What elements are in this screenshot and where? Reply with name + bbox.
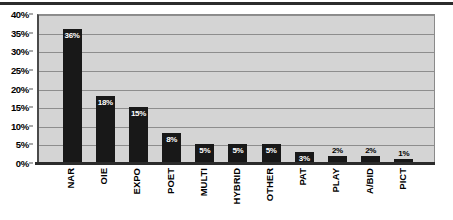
bar-value-label: 5% <box>188 146 221 155</box>
plot-area: 36%18%15%8%5%5%5%3%2%2%1% <box>37 14 435 163</box>
bar-group: 3% <box>288 15 321 163</box>
x-tick-group: OIE <box>87 166 120 220</box>
y-tick-label: 5% <box>16 139 29 150</box>
x-tick-label: NAR <box>65 168 76 189</box>
bar-value-label: 5% <box>221 146 254 155</box>
bar-group: 18% <box>89 15 122 163</box>
x-tick-group: OTHER <box>253 166 286 220</box>
bar-value-label: 1% <box>387 149 420 158</box>
y-tick-mark <box>29 14 33 15</box>
bar-value-label: 2% <box>321 146 354 155</box>
bar-value-label: 5% <box>255 146 288 155</box>
x-axis-baseline <box>35 162 435 165</box>
y-tick-mark <box>29 107 33 108</box>
x-tick-label: POET <box>164 168 175 194</box>
x-tick-group: NAR <box>54 166 87 220</box>
x-tick-label: A/BID <box>363 168 374 194</box>
y-tick-label: 10% <box>11 120 29 131</box>
x-tick-group: PICT <box>385 166 418 220</box>
x-tick-group: HYBRID <box>219 166 252 220</box>
bar-group: 8% <box>155 15 188 163</box>
x-tick-group: POET <box>153 166 186 220</box>
x-tick-label: OTHER <box>264 168 275 201</box>
x-tick-label: PAT <box>297 168 308 186</box>
bar-group: 5% <box>221 15 254 163</box>
x-tick-group: A/BID <box>352 166 385 220</box>
top-divider-rule <box>0 2 453 5</box>
y-tick-label: 0% <box>16 158 29 169</box>
x-tick-label: HYBRID <box>230 168 241 204</box>
bar-group: 5% <box>255 15 288 163</box>
bars-layer: 36%18%15%8%5%5%5%3%2%2%1% <box>39 15 434 163</box>
x-tick-label: OIE <box>98 168 109 184</box>
bar-group: 5% <box>188 15 221 163</box>
y-tick-label: 15% <box>11 102 29 113</box>
bar-value-label: 36% <box>56 31 89 40</box>
bar-value-label: 18% <box>89 98 122 107</box>
y-tick-mark <box>29 88 33 89</box>
y-tick-mark <box>29 51 33 52</box>
x-tick-label: PICT <box>396 168 407 190</box>
bar-value-label: 15% <box>122 109 155 118</box>
bar-group: 2% <box>354 15 387 163</box>
bar-group: 36% <box>56 15 89 163</box>
y-tick-mark <box>29 144 33 145</box>
y-tick-label: 20% <box>11 83 29 94</box>
x-tick-group: PAT <box>286 166 319 220</box>
x-axis: NAROIEEXPOPOETMULTIHYBRIDOTHERPATPLAYA/B… <box>37 166 435 220</box>
x-tick-group: PLAY <box>319 166 352 220</box>
y-tick-mark <box>29 163 33 164</box>
bar-group: 1% <box>387 15 420 163</box>
bar-group: 2% <box>321 15 354 163</box>
y-axis: 0%5%10%15%20%25%30%35%40% <box>0 14 33 163</box>
bar <box>63 29 82 163</box>
bar-group: 15% <box>122 15 155 163</box>
bar-chart-figure: 0%5%10%15%20%25%30%35%40% 36%18%15%8%5%5… <box>0 0 453 220</box>
y-tick-mark <box>29 125 33 126</box>
y-tick-label: 40% <box>11 9 29 20</box>
y-tick-label: 35% <box>11 27 29 38</box>
x-tick-label: EXPO <box>131 168 142 194</box>
bar-value-label: 8% <box>155 135 188 144</box>
y-tick-mark <box>29 32 33 33</box>
x-tick-label: PLAY <box>330 168 341 192</box>
x-tick-label: MULTI <box>197 168 208 196</box>
x-tick-group: MULTI <box>186 166 219 220</box>
x-tick-group: EXPO <box>120 166 153 220</box>
y-tick-label: 30% <box>11 46 29 57</box>
y-tick-label: 25% <box>11 64 29 75</box>
bar-value-label: 2% <box>354 146 387 155</box>
y-tick-mark <box>29 69 33 70</box>
